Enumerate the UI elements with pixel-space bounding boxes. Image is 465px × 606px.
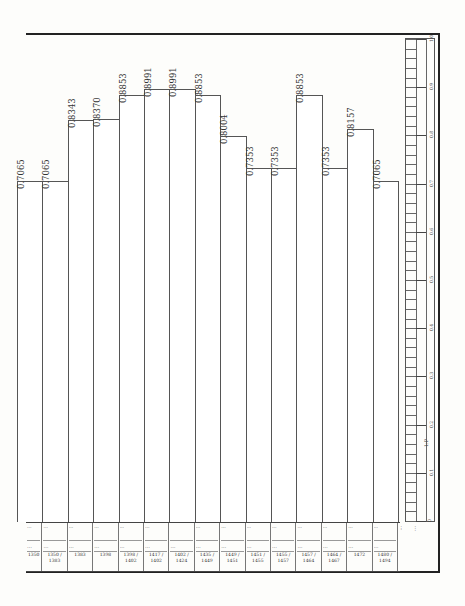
table-cell: 1402 / 1424 [170,552,192,570]
ruler-tick [406,145,416,146]
ruler-tick [406,78,416,79]
ruler-tick-label: 0.1 [429,469,434,476]
table-cell: … [297,541,319,552]
bar-value-label: 0.8004 [219,114,229,144]
ruler-tick [406,319,416,320]
ruler-tick-label: 0.3 [429,372,434,379]
ruler-major-tick [416,521,426,522]
ruler-tick [406,97,416,98]
right-border [438,34,440,572]
ruler-tick [406,454,416,455]
bar-value-label: 0.8370 [92,97,102,127]
ruler-tick [406,203,416,204]
ruler-tick [406,434,416,435]
bar [119,95,145,522]
table-column: …1402 / 1424 [169,523,194,571]
ruler-tick-label: 0.6 [429,228,434,235]
bar-value-label: 0.8343 [67,98,77,128]
table-column: ……1455 / 1457 [271,523,296,571]
ruler-tick [406,444,416,445]
bar-value-label: 0.7353 [321,146,331,176]
table-column: ……1350 / 1383 [42,523,67,571]
table-cell: … [120,541,142,552]
ruler-tick [406,367,416,368]
ruler-major-tick [416,425,426,426]
bar-value-label: 0.8991 [143,67,153,97]
ruler-tick-label: 0.7 [429,180,434,187]
ruler-tick-label: 0.2 [429,421,434,428]
ruler-tick [406,376,416,377]
table-cell: 1464 / 1467 [323,552,345,570]
table-cell: 1449 / 1451 [221,552,243,570]
ruler-tick [406,492,416,493]
ruler-tick [406,425,416,426]
table-cell: 1435 / 1449 [196,552,218,570]
ruler-tick [406,68,416,69]
table-cell: … [69,541,91,552]
ruler-tick [406,482,416,483]
ruler-tick [406,116,416,117]
bar [373,181,399,522]
table-cell: 1480 / 1494 [374,552,396,570]
ruler-tick-label: 0.9 [429,83,434,90]
table-cell: 1350 / 1383 [43,552,65,570]
bar [246,168,272,522]
ruler-tick [406,270,416,271]
table-cell: … [221,541,243,552]
table-cell: … [323,524,345,541]
table-cell: 1455 / 1457 [272,552,294,570]
ruler-tick [406,135,416,136]
table-column: ……1435 / 1449 [195,523,220,571]
bar [169,89,195,522]
table-cell: 1350 [27,552,40,570]
ruler-tick [406,58,416,59]
table-cell: … [272,524,294,541]
ruler-tick [406,251,416,252]
scale-ruler: 1.00.90.80.70.60.50.40.30.20.10 [405,38,435,522]
top-border [26,33,440,35]
ruler-tick [406,261,416,262]
ruler-tick [406,386,416,387]
ruler-major-tick [416,135,426,136]
bar [195,95,221,522]
ruler-tick [406,49,416,50]
ruler-major-tick [416,376,426,377]
ruler-major-tick [416,473,426,474]
bar [347,129,373,522]
ruler-tick [406,193,416,194]
chart-caption: … [414,526,420,531]
ruler-tick [406,222,416,223]
table-column: ……1398 / 1402 [119,523,144,571]
ruler-tick [406,309,416,310]
table-column: ……1464 / 1467 [322,523,347,571]
bar [322,168,348,522]
table-column: ……1383 [68,523,93,571]
ruler-tick-label: 0.8 [429,131,434,138]
table-cell: … [69,524,91,541]
ruler-tick [406,241,416,242]
rank-label: … [400,526,405,531]
ruler-tick [406,39,416,40]
ruler-tick [406,106,416,107]
table-cell: … [272,541,294,552]
table-column: ……1350 [26,523,42,571]
table-cell: 1451 / 1455 [247,552,269,570]
bar-value-label: 0.8853 [295,74,305,104]
table-column: ……1457 / 1464 [296,523,321,571]
ruler-tick [406,396,416,397]
ruler-major-tick [416,87,426,88]
table-cell: … [196,524,218,541]
table-cell: … [323,541,345,552]
ruler-tick [406,184,416,185]
ruler-tick [406,338,416,339]
ruler-tick [406,155,416,156]
table-cell: … [196,541,218,552]
table-column: ……1472 [347,523,372,571]
bar [93,119,119,522]
table-cell: … [94,524,116,541]
table-cell: … [120,524,142,541]
ruler-major-tick [416,39,426,40]
table-cell: 1472 [348,552,370,570]
bar [296,95,322,522]
table-column: ……1451 / 1455 [246,523,271,571]
